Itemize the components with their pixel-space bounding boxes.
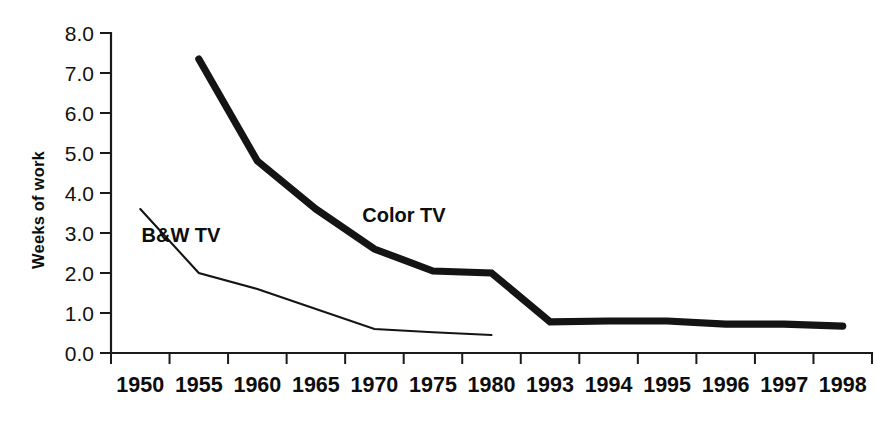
series-lines [140,59,842,335]
series-annotations: Color TVB&W TV [142,204,447,246]
chart-container: Weeks of work 0.01.02.03.04.05.06.07.08.… [0,0,877,421]
x-tick-label: 1994 [585,373,633,397]
x-tick-label: 1997 [760,373,808,397]
x-tick-label: 1980 [468,373,516,397]
y-axis-tick-labels: 0.01.02.03.04.05.06.07.08.0 [65,22,94,365]
y-tick-label: 7.0 [65,62,94,85]
x-tick-label: 1970 [351,373,399,397]
x-axis-ticks [111,353,872,364]
y-tick-label: 5.0 [65,142,94,165]
y-tick-label: 0.0 [65,342,94,365]
line-chart: Weeks of work 0.01.02.03.04.05.06.07.08.… [0,0,877,421]
x-tick-label: 1950 [116,373,164,397]
y-tick-label: 4.0 [65,182,94,205]
annotation-b-w-tv: B&W TV [142,224,222,246]
x-tick-label: 1996 [702,373,750,397]
x-tick-label: 1960 [233,373,281,397]
x-tick-label: 1975 [409,373,457,397]
y-tick-label: 8.0 [65,22,94,45]
y-tick-label: 3.0 [65,222,94,245]
x-tick-label: 1993 [526,373,574,397]
x-tick-label: 1995 [643,373,691,397]
series-line-color-tv [199,59,843,326]
annotation-color-tv: Color TV [362,204,446,226]
x-tick-label: 1955 [175,373,223,397]
x-axis-tick-labels: 1950195519601965197019751980199319941995… [116,373,866,397]
x-tick-label: 1998 [819,373,867,397]
y-axis-title: Weeks of work [29,150,47,268]
y-tick-label: 6.0 [65,102,94,125]
y-tick-label: 1.0 [65,302,94,325]
y-tick-label: 2.0 [65,262,94,285]
x-tick-label: 1965 [292,373,340,397]
y-axis-ticks [100,33,111,353]
